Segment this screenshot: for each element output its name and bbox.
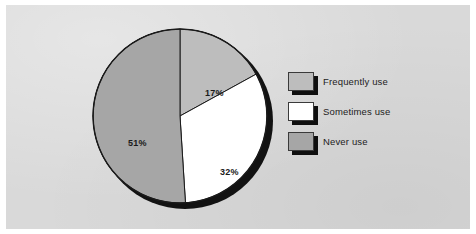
- legend-label-sometimes-use: Sometimes use: [323, 106, 390, 117]
- legend-item-frequently-use[interactable]: Frequently use: [288, 66, 438, 96]
- legend-label-frequently-use: Frequently use: [323, 76, 388, 87]
- legend-swatch-frequently-use: [288, 72, 314, 91]
- legend-swatch-fill: [288, 132, 314, 151]
- legend-swatch-never-use: [288, 132, 314, 151]
- legend-label-never-use: Never use: [323, 136, 368, 147]
- pie-label-frequently-use: 17%: [205, 88, 224, 98]
- chart-figure: 17% 32% 51% Frequently use Sometimes use: [0, 0, 476, 234]
- pie-label-never-use: 51%: [128, 138, 147, 148]
- chart-legend: Frequently use Sometimes use Never use: [288, 66, 438, 156]
- pie-svg: [92, 28, 268, 204]
- pie-slices: [92, 28, 268, 204]
- legend-swatch-fill: [288, 102, 314, 121]
- pie-slice-never-use[interactable]: [93, 29, 185, 203]
- legend-item-never-use[interactable]: Never use: [288, 126, 438, 156]
- pie-label-sometimes-use: 32%: [220, 167, 239, 177]
- legend-swatch-sometimes-use: [288, 102, 314, 121]
- legend-item-sometimes-use[interactable]: Sometimes use: [288, 96, 438, 126]
- pie-chart: 17% 32% 51%: [92, 28, 278, 214]
- legend-swatch-fill: [288, 72, 314, 91]
